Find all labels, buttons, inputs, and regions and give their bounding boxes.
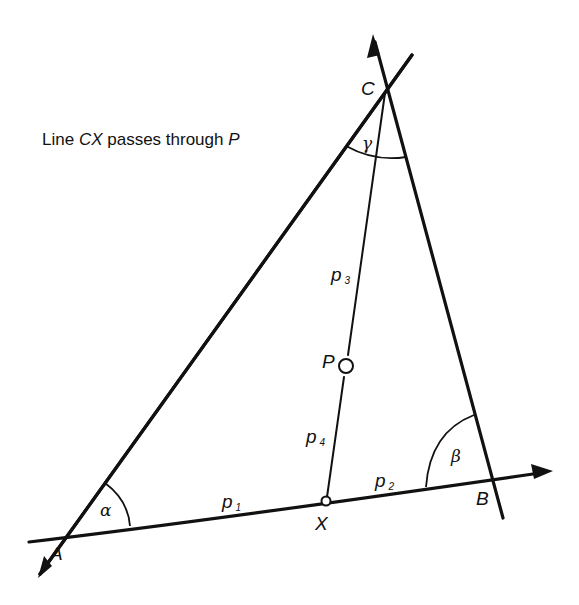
label-b: B: [476, 488, 489, 509]
label-p4-sub: 4: [320, 437, 326, 448]
segment-px: [327, 377, 344, 497]
label-c: C: [361, 78, 375, 99]
label-p: P: [322, 351, 335, 372]
arrow-up-icon: [367, 34, 380, 58]
label-p4: p4: [305, 426, 326, 448]
point-p-marker: [339, 359, 353, 373]
label-p3: p3: [330, 264, 351, 286]
label-p3-base: p: [330, 264, 342, 285]
label-p2-base: p: [374, 470, 386, 491]
triangle-diagram: Line CX passes through P C A B X P α β γ…: [0, 0, 579, 605]
label-alpha: α: [100, 500, 112, 520]
label-p2: p2: [374, 470, 395, 492]
caption-prefix: Line: [42, 130, 79, 149]
caption-line-name: CX: [79, 130, 103, 149]
label-p2-sub: 2: [388, 481, 395, 492]
label-beta: β: [450, 446, 461, 466]
label-p4-base: p: [305, 426, 317, 447]
caption-point-name: P: [228, 130, 240, 149]
point-x-marker: [322, 497, 331, 506]
caption-middle: passes through: [103, 130, 229, 149]
label-a: A: [49, 543, 63, 564]
label-p1-base: p: [221, 491, 233, 512]
label-p1: p1: [221, 491, 241, 513]
label-p3-sub: 3: [345, 275, 351, 286]
label-x: X: [314, 513, 329, 534]
arrow-right-icon: [531, 464, 553, 479]
label-gamma: γ: [362, 133, 373, 153]
label-p1-sub: 1: [236, 502, 242, 513]
line-cb: [375, 42, 503, 518]
angle-beta-arc: [426, 415, 474, 487]
caption: Line CX passes through P: [42, 130, 240, 149]
